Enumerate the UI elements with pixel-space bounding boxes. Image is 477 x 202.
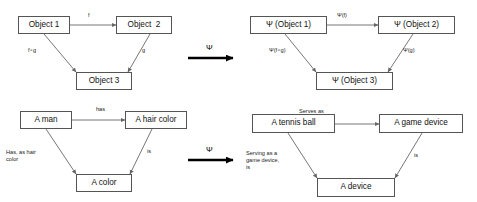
edge-label-is-left: is [147, 148, 151, 155]
edge-label-has: has [96, 106, 105, 113]
node-a-man[interactable]: A man [20, 111, 72, 129]
node-a-tennis-ball[interactable]: A tennis ball [252, 114, 335, 133]
edge-label-serving-as-a-game-device-is: Serving as a game device, is [246, 150, 300, 171]
edge-label-serves-as: Serves as [299, 108, 324, 115]
functor-label-top: Ψ [206, 43, 213, 52]
node-object-1[interactable]: Object 1 [18, 16, 70, 34]
node-object-3[interactable]: Object 3 [76, 72, 132, 90]
edge-label-psi-f: Ψ(f) [337, 12, 347, 19]
node-a-color[interactable]: A color [76, 174, 132, 192]
diagram-canvas: Object 1 Object 2 Object 3 f f∘g g Ψ (Ob… [0, 0, 477, 202]
edge-label-psi-fg: Ψ(f∘g) [269, 47, 286, 54]
edge-label-has-as-hair-color: Has, as hair color [6, 149, 54, 163]
node-psi-object-3[interactable]: Ψ (Object 3) [316, 72, 393, 90]
edge-label-is-right: is [414, 152, 418, 159]
edge-label-psi-g: Ψ(g) [403, 47, 415, 54]
node-a-game-device[interactable]: A game device [379, 114, 463, 133]
edge-label-g: g [142, 47, 145, 54]
functor-label-bottom: Ψ [206, 145, 213, 154]
node-a-hair-color[interactable]: A hair color [125, 111, 187, 129]
edge-label-fg: f∘g [28, 47, 36, 54]
node-psi-object-2[interactable]: Ψ (Object 2) [378, 16, 455, 34]
node-object-2[interactable]: Object 2 [116, 16, 172, 34]
node-a-device[interactable]: A device [317, 178, 395, 197]
node-psi-object-1[interactable]: Ψ (Object 1) [250, 16, 327, 34]
edge-label-f: f [88, 12, 90, 19]
